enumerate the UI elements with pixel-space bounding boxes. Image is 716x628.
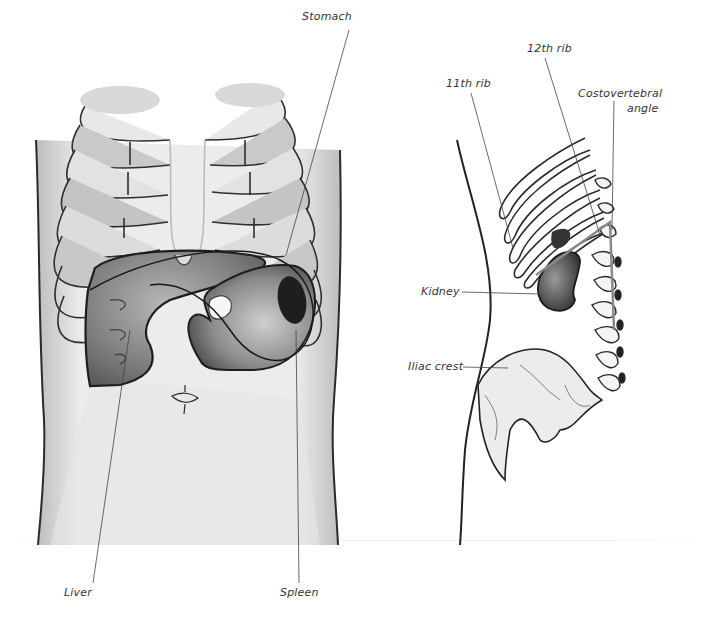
leader-lines-right [462,58,614,368]
label-liver: Liver [64,586,92,599]
spine [592,178,625,391]
kidney-upper-pole [551,229,570,249]
label-costovertebral: Costovertebral [578,87,662,100]
iliac-crest [478,349,602,480]
label-iliac-crest: Iliac crest [408,360,463,373]
label-11th-rib: 11th rib [446,77,491,90]
label-kidney: Kidney [421,285,460,298]
label-12th-rib: 12th rib [527,42,572,55]
label-stomach: Stomach [302,10,352,23]
label-angle: angle [627,102,659,115]
posterior-flank [457,140,491,545]
label-spleen: Spleen [280,586,319,599]
